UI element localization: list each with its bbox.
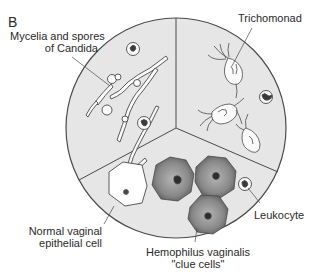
label-leukocyte: Leukocyte: [254, 209, 304, 221]
leukocyte-icon: [138, 117, 151, 130]
label-clue-line2: "clue cells": [130, 258, 266, 270]
label-epithelial-line1: Normal vaginal: [20, 225, 102, 237]
label-normal-epithelial: Normal vaginal epithelial cell: [20, 225, 102, 249]
leukocyte-icon: [127, 43, 140, 56]
label-candida-line2: of Candida: [10, 42, 98, 54]
label-clue-line1: Hemophilus vaginalis: [130, 246, 266, 258]
clue-cell-icon: [152, 157, 194, 201]
label-trichomonad: Trichomonad: [238, 12, 302, 24]
label-candida: Mycelia and spores of Candida: [10, 30, 98, 54]
label-clue-cells: Hemophilus vaginalis "clue cells": [130, 246, 266, 270]
leukocyte-icon: [239, 178, 252, 191]
leukocyte-icon: [260, 91, 273, 104]
label-candida-line1: Mycelia and spores: [10, 30, 98, 42]
microscopy-diagram: B: [0, 0, 312, 279]
label-epithelial-line2: epithelial cell: [20, 237, 102, 249]
